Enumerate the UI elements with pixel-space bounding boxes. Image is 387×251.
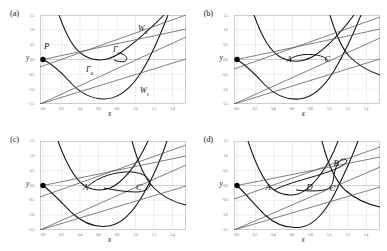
panel-d-label-A: A: [266, 182, 271, 192]
panel-a-xtick-1: 0.2: [54, 106, 70, 111]
panel-d-ytick-5: -1.0: [212, 212, 228, 217]
panel-b-xtick-0: 0.0: [229, 106, 245, 111]
panel-b-xtick-5: 1.0: [321, 106, 337, 111]
panel-d-xtick-2: 0.4: [266, 232, 282, 237]
panel-d-xtick-3: 0.6: [284, 232, 300, 237]
panel-b-xtick-4: 0.8: [303, 106, 319, 111]
panel-c-ytick-3: 0.0: [18, 183, 34, 188]
panel-d-ytick-2: 0.5: [212, 168, 228, 173]
panel-d-xtick-4: 0.8: [303, 232, 319, 237]
panel-d-xtick-7: 1.4: [358, 232, 374, 237]
panel-a-ytick-6: -1.5: [18, 101, 34, 106]
panel-c: (c) y x 1.5 1.0 0.5 0.0 -0.5 -1.0 -1.5 0…: [0, 126, 194, 251]
panel-d-xtick-5: 1.0: [321, 232, 337, 237]
panel-b-ytick-4: -0.5: [212, 72, 228, 77]
panel-d-xtick-1: 0.2: [247, 232, 263, 237]
panel-c-xtick-3: 0.6: [91, 232, 107, 237]
panel-a-xtick-2: 0.4: [72, 106, 88, 111]
panel-b-label-A: A: [287, 54, 292, 64]
panel-c-plot-area: [40, 141, 186, 230]
panel-a-ytick-4: -0.5: [18, 72, 34, 77]
panel-b-ytick-5: -1.0: [212, 87, 228, 92]
panel-a-xtick-0: 0.0: [35, 106, 51, 111]
panel-d-ytick-6: -1.5: [212, 227, 228, 232]
panel-a-xtick-7: 1.4: [165, 106, 181, 111]
panel-d-ytick-1: 1.0: [212, 153, 228, 158]
panel-a-ytick-2: 0.5: [18, 42, 34, 47]
panel-b-ytick-6: -1.5: [212, 101, 228, 106]
panel-d-xtick-6: 1.2: [340, 232, 356, 237]
panel-b: (b) y x 1.5 1.0 0.5 0.0 -0.5 -1.0 -1.5 0…: [194, 0, 387, 126]
panel-a-label-Gamma-s: Γs: [113, 45, 120, 56]
panel-a-point-label-P: P: [44, 41, 49, 51]
panel-a-xtick-4: 0.8: [109, 106, 125, 111]
panel-a-label-Wu: Wu: [138, 24, 147, 35]
panel-c-xtick-2: 0.4: [72, 232, 88, 237]
panel-d-label-B: B: [334, 158, 339, 168]
panel-a-label-Ws: Ws: [140, 86, 149, 97]
panel-a-xtick-6: 1.2: [146, 106, 162, 111]
panel-b-ytick-1: 1.0: [212, 27, 228, 32]
panel-c-ytick-0: 1.5: [18, 138, 34, 143]
panel-c-ytick-1: 1.0: [18, 153, 34, 158]
panel-d-ytick-3: 0.0: [212, 183, 228, 188]
panel-b-plot-area: [234, 15, 380, 104]
panel-c-ytick-6: -1.5: [18, 227, 34, 232]
panel-c-xtick-5: 1.0: [128, 232, 144, 237]
panel-a-ytick-5: -1.0: [18, 87, 34, 92]
panel-c-ytick-5: -1.0: [18, 212, 34, 217]
panel-b-xtick-6: 1.2: [340, 106, 356, 111]
panel-a-ytick-0: 1.5: [18, 13, 34, 18]
panel-a-xtick-5: 1.0: [128, 106, 144, 111]
panel-b-xtick-3: 0.6: [284, 106, 300, 111]
panel-c-xtick-0: 0.0: [35, 232, 51, 237]
panel-d-xtick-0: 0.0: [229, 232, 245, 237]
panel-c-label-C: C: [136, 182, 142, 192]
panel-d-ytick-0: 1.5: [212, 138, 228, 143]
panel-c-xtick-7: 1.4: [165, 232, 181, 237]
figure-root: (a) y x 1.5 1.0 0.5 0.0 -0.5 -1.0 -1.5 0…: [0, 0, 387, 251]
panel-a-ytick-1: 1.0: [18, 27, 34, 32]
panel-a: (a) y x 1.5 1.0 0.5 0.0 -0.5 -1.0 -1.5 0…: [0, 0, 194, 126]
panel-b-xtick-2: 0.4: [266, 106, 282, 111]
panel-a-plot-area: [40, 15, 186, 104]
panel-a-label-Gamma-u: Γu: [86, 65, 93, 76]
panel-c-ytick-4: -0.5: [18, 197, 34, 202]
panel-a-xtick-3: 0.6: [91, 106, 107, 111]
panel-d: (d) y x 1.5 1.0 0.5 0.0 -0.5 -1.0 -1.5 0…: [194, 126, 387, 251]
panel-d-label-C: C: [330, 183, 336, 193]
panel-d-ytick-4: -0.5: [212, 197, 228, 202]
panel-b-ytick-0: 1.5: [212, 13, 228, 18]
panel-c-ytick-2: 0.5: [18, 168, 34, 173]
panel-a-ytick-3: 0.0: [18, 57, 34, 62]
panel-b-xtick-1: 0.2: [247, 106, 263, 111]
panel-c-xtick-1: 0.2: [54, 232, 70, 237]
panel-c-xtick-6: 1.2: [146, 232, 162, 237]
panel-b-ytick-3: 0.0: [212, 57, 228, 62]
panel-d-label-D: D: [307, 182, 313, 192]
panel-b-label-C: C: [325, 54, 331, 64]
panel-c-xtick-4: 0.8: [109, 232, 125, 237]
panel-b-xtick-7: 1.4: [358, 106, 374, 111]
panel-b-ytick-2: 0.5: [212, 42, 228, 47]
panel-c-label-A: A: [83, 182, 88, 192]
